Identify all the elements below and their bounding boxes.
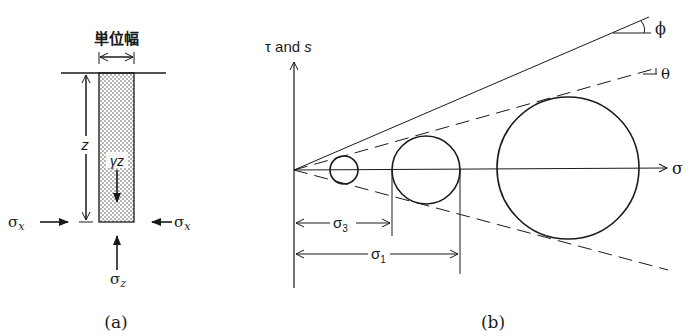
sigma-z-label: σz	[110, 270, 126, 290]
phi-envelope-line	[294, 17, 649, 170]
sigma-axis-label: σ	[672, 159, 683, 178]
sigma-x-left-label: σx	[8, 213, 25, 233]
theta-upper-dashed-line	[294, 68, 657, 170]
sigma-x-right-label: σx	[174, 213, 191, 233]
diagram-svg: 単位幅 z γz σx σx σz (a) τ and s	[0, 0, 695, 336]
caption-a: (a)	[104, 312, 127, 332]
diagram-canvas: 単位幅 z γz σx σx σz (a) τ and s	[0, 0, 695, 336]
panel-b: τ and s σ ϕ θ σ3 σ1 (b)	[265, 17, 683, 332]
caption-b: (b)	[481, 312, 505, 332]
panel-a: 単位幅 z γz σx σx σz (a)	[8, 30, 191, 332]
tau-axis-label: τ and s	[265, 38, 312, 55]
phi-label: ϕ	[655, 19, 666, 38]
lower-dashed-line	[294, 170, 668, 270]
theta-label: θ	[661, 65, 670, 83]
mohr-circle-medium	[392, 136, 460, 204]
sigma-axis	[294, 168, 667, 170]
depth-label: z	[80, 136, 89, 153]
sigma3-label: σ3	[333, 214, 348, 234]
unit-width-label: 単位幅	[94, 30, 139, 47]
unit-weight-label: γz	[110, 153, 124, 169]
phi-angle-arc	[641, 21, 645, 33]
sigma1-label: σ1	[371, 245, 386, 265]
